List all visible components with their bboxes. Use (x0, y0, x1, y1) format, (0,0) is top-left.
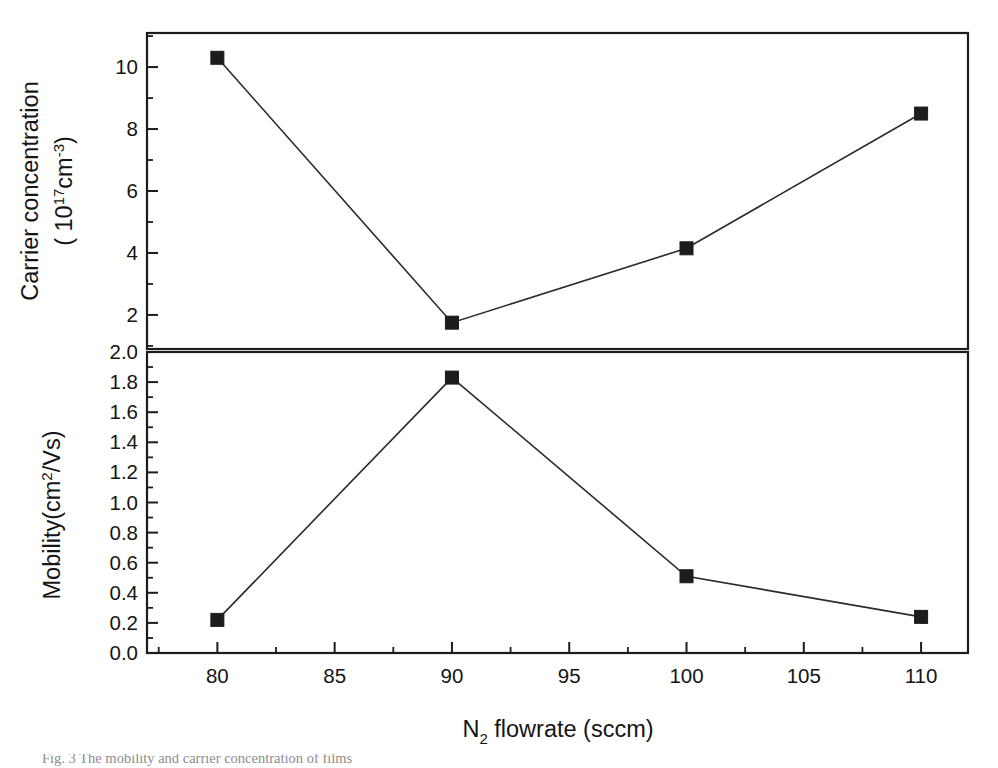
top-data-marker (445, 316, 458, 329)
x-tick-label: 90 (441, 664, 464, 687)
y-tick-label: 1.8 (110, 370, 139, 393)
bottom-panel-series-line (217, 378, 921, 620)
top-data-marker (915, 107, 928, 120)
figure-caption-strip: Fig. 3 The mobility and carrier concentr… (0, 754, 998, 768)
bottom-panel-tick-labels: 0.00.20.40.60.81.01.21.41.61.82.0 (110, 340, 139, 664)
y-tick-label: 1.6 (110, 400, 139, 423)
top-ylabel-exp-17: 17 (50, 189, 67, 206)
top-data-marker (211, 51, 224, 64)
bottom-ylabel-post: /Vs) (39, 431, 65, 473)
x-tick-label: 100 (669, 664, 703, 687)
y-tick-label: 0.0 (110, 641, 139, 664)
top-ylabel-exp-minus3: -3 (50, 144, 67, 157)
bottom-panel-y-axis-label: Mobility(cm2/Vs) (38, 431, 65, 600)
top-data-marker (680, 242, 693, 255)
y-tick-label: 0.2 (110, 611, 139, 634)
y-tick-label: 8 (127, 117, 138, 140)
bottom-panel-ticks (147, 352, 158, 653)
y-tick-label: 0.6 (110, 551, 139, 574)
top-panel-markers (211, 51, 928, 329)
x-axis-tick-labels: 80859095100105110 (206, 664, 937, 687)
bottom-data-marker (915, 610, 928, 623)
y-tick-label: 4 (127, 241, 138, 264)
y-tick-label: 0.4 (110, 581, 139, 604)
x-tick-label: 105 (787, 664, 821, 687)
x-axis-label-rest: flowrate (sccm) (488, 716, 654, 742)
x-axis-label-n: N (462, 716, 479, 742)
y-tick-label: 0.8 (110, 521, 139, 544)
bottom-ylabel-pre: Mobility(cm (39, 481, 65, 600)
top-panel-y-axis-label: Carrier concentration (17, 81, 43, 300)
bottom-data-marker (680, 570, 693, 583)
x-axis-ticks (159, 642, 921, 653)
chart-svg: 246810 0.00.20.40.60.81.01.21.41.61.82.0… (0, 0, 998, 768)
top-ylabel-paren-close: ) (51, 136, 77, 144)
x-axis-label: N2 flowrate (sccm) (462, 716, 653, 747)
y-tick-label: 1.2 (110, 460, 139, 483)
top-panel-tick-labels: 246810 (115, 55, 138, 326)
y-tick-label: 10 (115, 55, 138, 78)
y-tick-label: 1.0 (110, 491, 139, 514)
bottom-ylabel: Mobility(cm2/Vs) (38, 431, 65, 600)
x-tick-label: 85 (323, 664, 346, 687)
bottom-panel-markers (211, 371, 928, 626)
figure-caption: Fig. 3 The mobility and carrier concentr… (42, 754, 352, 767)
bottom-panel: 0.00.20.40.60.81.01.21.41.61.82.0 808590… (110, 340, 969, 687)
y-tick-label: 6 (127, 179, 138, 202)
y-tick-label: 2.0 (110, 340, 139, 363)
x-tick-label: 95 (558, 664, 581, 687)
top-ylabel-line1: Carrier concentration (17, 81, 43, 300)
top-panel: 246810 (115, 33, 968, 349)
y-tick-label: 1.4 (110, 430, 139, 453)
x-tick-label: 80 (206, 664, 229, 687)
top-ylabel-line2: ( 1017cm-3) (50, 136, 77, 246)
top-panel-frame (147, 33, 968, 349)
y-tick-label: 2 (127, 303, 138, 326)
top-panel-y-axis-units: ( 1017cm-3) (50, 136, 77, 246)
top-ylabel-cm: cm (51, 157, 77, 188)
bottom-panel-frame (147, 352, 968, 653)
x-axis-label-sub-2: 2 (479, 730, 487, 747)
top-panel-ticks (147, 36, 158, 346)
bottom-data-marker (211, 613, 224, 626)
top-panel-series-line (217, 58, 921, 323)
top-ylabel-paren-open: ( 10 (51, 205, 77, 246)
x-tick-label: 110 (905, 664, 938, 687)
bottom-data-marker (445, 371, 458, 384)
figure-container: 246810 0.00.20.40.60.81.01.21.41.61.82.0… (0, 0, 998, 768)
bottom-ylabel-exp-2: 2 (38, 472, 55, 480)
